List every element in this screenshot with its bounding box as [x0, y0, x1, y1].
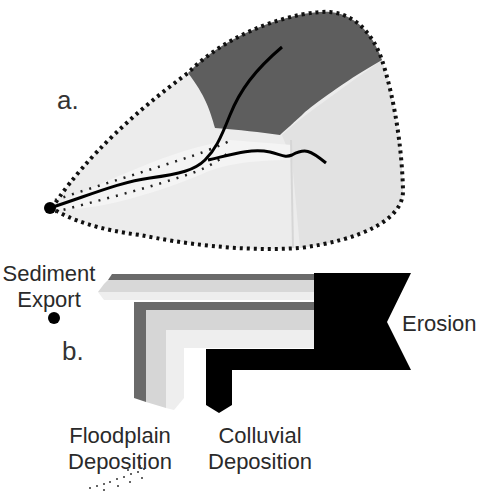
- outlet-marker: [44, 202, 56, 214]
- erosion-label: Erosion: [402, 311, 477, 337]
- colluvial-line2: Deposition: [208, 449, 312, 475]
- watershed-map: [44, 12, 403, 249]
- floodplain-line2: Deposition: [68, 449, 172, 475]
- sediment-export-label: Sediment Export: [2, 261, 96, 313]
- panel-a-label: a.: [57, 87, 79, 113]
- colluvial-line1: Colluvial: [208, 423, 312, 449]
- colluvial-deposition-label: Colluvial Deposition: [208, 423, 312, 475]
- floodplain-deposition-label: Floodplain Deposition: [68, 423, 172, 475]
- colluvial-arrow: [206, 398, 232, 413]
- sediment-export-band-dark: [108, 274, 316, 280]
- sediment-export-band-light: [98, 280, 316, 292]
- sediment-export-line2: Export: [2, 287, 96, 313]
- sediment-export-line1: Sediment: [2, 261, 96, 287]
- sediment-export-marker: [48, 312, 60, 324]
- panel-b-label: b.: [62, 338, 84, 364]
- sediment-export-band-pale: [98, 292, 316, 300]
- floodplain-line1: Floodplain: [68, 423, 172, 449]
